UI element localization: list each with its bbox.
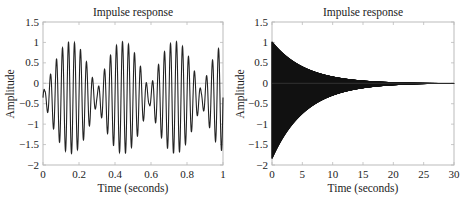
x-tick-label: 0 xyxy=(269,168,275,180)
y-tick-label: 1.5 xyxy=(25,16,39,28)
x-tick-label: 0.2 xyxy=(72,168,86,180)
y-tick-label: −0.5 xyxy=(19,97,39,109)
y-tick-label: −1 xyxy=(27,118,39,130)
y-tick-label: 1.5 xyxy=(254,16,268,28)
y-tick-label: −1 xyxy=(256,118,268,130)
x-tick-label: 0 xyxy=(40,168,46,180)
x-tick-label: 15 xyxy=(358,168,370,180)
chart-left-ylabel: Amplitude xyxy=(4,69,17,118)
chart-right: Impulse response 1.510.50−0.5−1−1.5−2 05… xyxy=(234,6,460,195)
y-tick-label: 0 xyxy=(263,77,269,89)
chart-right-title: Impulse response xyxy=(323,6,403,19)
y-tick-label: 0.5 xyxy=(254,56,268,68)
y-tick-label: −1.5 xyxy=(19,138,39,150)
x-tick-label: 25 xyxy=(418,168,430,180)
x-tick-label: 30 xyxy=(449,168,461,180)
figure: Impulse response 1.510.50−0.5−1−1.5−2 00… xyxy=(0,0,466,207)
y-tick-label: −2 xyxy=(256,159,268,171)
x-tick-label: 5 xyxy=(300,168,306,180)
y-tick-label: 1 xyxy=(34,36,40,48)
x-tick-label: 1 xyxy=(220,168,226,180)
y-tick-label: 1 xyxy=(263,36,269,48)
y-tick-label: 0.5 xyxy=(25,56,39,68)
x-tick-label: 0.6 xyxy=(144,168,158,180)
chart-left-xlabel: Time (seconds) xyxy=(98,182,169,195)
y-tick-label: −2 xyxy=(27,159,39,171)
y-tick-label: −0.5 xyxy=(248,97,268,109)
x-tick-label: 0.8 xyxy=(180,168,194,180)
chart-left-signal-line xyxy=(43,42,223,154)
x-tick-label: 20 xyxy=(388,168,400,180)
y-tick-label: 0 xyxy=(34,77,40,89)
chart-left: Impulse response 1.510.50−0.5−1−1.5−2 00… xyxy=(4,6,226,195)
chart-right-ylabel: Amplitude xyxy=(234,69,247,118)
chart-right-xlabel: Time (seconds) xyxy=(328,182,399,195)
x-tick-label: 10 xyxy=(327,168,339,180)
x-tick-label: 0.4 xyxy=(108,168,122,180)
chart-right-signal-line xyxy=(272,42,454,159)
y-tick-label: −1.5 xyxy=(248,138,268,150)
chart-left-title: Impulse response xyxy=(93,6,173,19)
